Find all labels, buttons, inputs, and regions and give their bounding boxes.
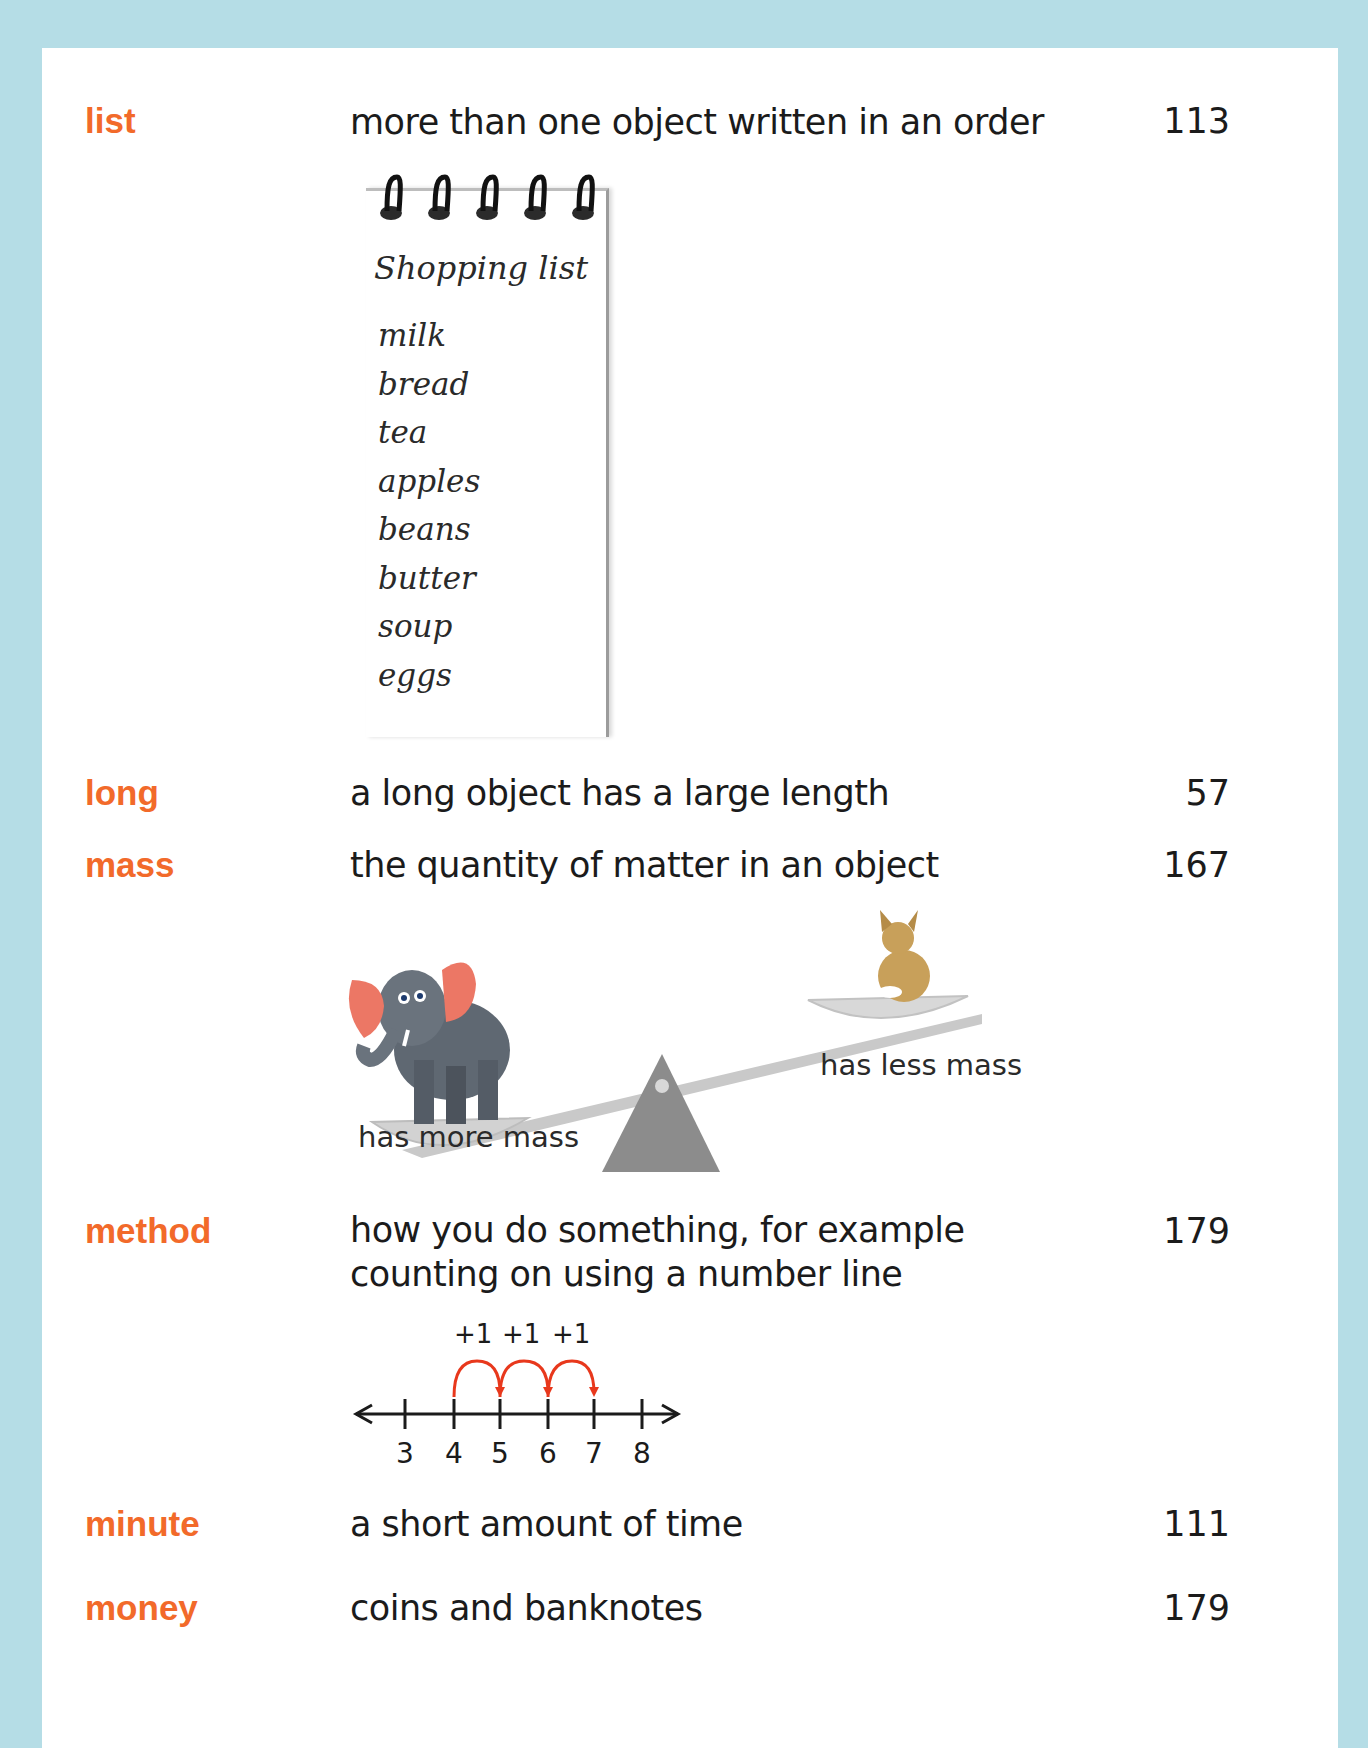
definition-long: a long object has a large length [350,771,889,815]
tick-label: 6 [539,1437,557,1463]
tick-label: 3 [396,1437,414,1463]
definition-list: more than one object written in an order [350,100,1044,144]
page-ref-method: 179 [1163,1211,1230,1251]
page-ref-money: 179 [1163,1588,1230,1628]
page-ref-long: 57 [1185,773,1230,813]
term-list: list [85,101,136,141]
tick-label: 5 [491,1437,509,1463]
definition-money: coins and banknotes [350,1586,703,1630]
page-ref-list: 113 [1163,101,1230,141]
elephant-icon [349,963,510,1124]
list-item: eggs [378,651,480,700]
has-less-mass-label: has less mass [820,1048,1022,1082]
list-item: milk [378,311,480,360]
jump-label: +1 [454,1319,492,1349]
list-item: beans [378,505,480,554]
jump-label: +1 [502,1319,540,1349]
jump-arrows [454,1361,594,1397]
definition-mass: the quantity of matter in an object [350,843,939,887]
right-pan [808,996,968,1018]
term-minute: minute [85,1504,200,1544]
list-item: butter [378,554,480,603]
list-item: bread [378,360,480,409]
tick-label: 4 [445,1437,463,1463]
term-long: long [85,773,159,813]
list-item: tea [378,408,480,457]
list-item: apples [378,457,480,506]
tick-label: 7 [585,1437,603,1463]
definition-minute: a short amount of time [350,1502,743,1546]
spiral-rings-icon [371,167,601,227]
term-money: money [85,1588,198,1628]
shopping-list-notepad: Shopping list milk bread tea apples bean… [366,188,609,737]
fulcrum-icon [602,1054,720,1172]
definition-method: how you do something, for example counti… [350,1208,1110,1296]
term-mass: mass [85,845,175,885]
page-ref-minute: 111 [1163,1504,1230,1544]
jump-label: +1 [552,1319,590,1349]
page-ref-mass: 167 [1163,845,1230,885]
term-method: method [85,1211,211,1251]
list-item: soup [378,602,480,651]
has-more-mass-label: has more mass [358,1120,579,1154]
glossary-page: list more than one object written in an … [42,48,1338,1748]
shopping-list-title: Shopping list [374,249,588,287]
number-line-axis [356,1399,678,1429]
cat-icon [878,910,930,1002]
tick-label: 8 [633,1437,651,1463]
number-line-diagram: +1 +1 +1 3 4 5 6 7 8 [342,1313,702,1463]
shopping-list-items: milk bread tea apples beans butter soup … [378,311,480,699]
